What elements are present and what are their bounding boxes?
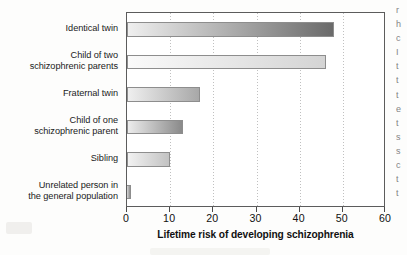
page-bleed-line: s xyxy=(390,144,407,158)
category-label-line: Child of one xyxy=(0,115,118,125)
page-bleed-line: e xyxy=(390,102,407,116)
bar xyxy=(127,120,183,135)
category-label-line: schizophrenic parent xyxy=(0,126,118,136)
page-bleed-line: r xyxy=(390,3,407,17)
page-bleed-line: t xyxy=(390,59,407,73)
page-bleed-line: c xyxy=(390,158,407,172)
x-tick xyxy=(384,207,385,212)
x-tick xyxy=(299,207,300,212)
category-label: Sibling xyxy=(0,153,118,163)
page-bleed-line: t xyxy=(390,88,407,102)
x-tick xyxy=(126,207,127,212)
category-label-line: Identical twin xyxy=(0,23,118,33)
scan-smudge xyxy=(6,222,32,234)
x-tick xyxy=(169,207,170,212)
category-label: Unrelated person inthe general populatio… xyxy=(0,180,118,201)
bar xyxy=(127,152,170,167)
category-label: Fraternal twin xyxy=(0,88,118,98)
category-label-line: Unrelated person in xyxy=(0,180,118,190)
page-bleed-line: s xyxy=(390,130,407,144)
bar xyxy=(127,87,200,102)
category-label: Child of twoschizophrenic parents xyxy=(0,50,118,71)
page-bleed-line: h xyxy=(390,17,407,31)
category-label: Child of oneschizophrenic parent xyxy=(0,115,118,136)
x-tick xyxy=(212,207,213,212)
bar xyxy=(127,22,334,37)
bar xyxy=(127,185,131,200)
page-bleed-line: t xyxy=(390,172,407,186)
x-tick xyxy=(342,207,343,212)
scanned-page-bleed-text: rhcItttetssctt xyxy=(390,0,407,255)
x-tick-label: 40 xyxy=(293,212,305,224)
x-tick-label: 0 xyxy=(123,212,129,224)
x-tick-label: 30 xyxy=(249,212,261,224)
page-bleed-line: t xyxy=(390,73,407,87)
page-bleed-line: I xyxy=(390,45,407,59)
x-axis-tick-labels: 0102030405060 xyxy=(126,212,385,228)
schizophrenia-risk-bar-chart-figure: Identical twinChild of twoschizophrenic … xyxy=(0,0,407,255)
category-label-line: schizophrenic parents xyxy=(0,61,118,71)
page-bleed-line: c xyxy=(390,31,407,45)
x-tick xyxy=(256,207,257,212)
category-label-line: the general population xyxy=(0,191,118,201)
x-axis-title: Lifetime risk of developing schizophreni… xyxy=(126,229,385,240)
category-label: Identical twin xyxy=(0,23,118,33)
x-tick-label: 10 xyxy=(163,212,175,224)
scan-smudge xyxy=(150,248,270,255)
plot-area xyxy=(126,12,385,207)
bars-container xyxy=(127,13,384,206)
bar xyxy=(127,55,326,70)
x-tick-label: 20 xyxy=(206,212,218,224)
category-label-line: Fraternal twin xyxy=(0,88,118,98)
x-tick-label: 50 xyxy=(336,212,348,224)
page-bleed-line: t xyxy=(390,116,407,130)
category-label-line: Child of two xyxy=(0,50,118,60)
category-label-line: Sibling xyxy=(0,153,118,163)
page-bleed-line: t xyxy=(390,186,407,200)
category-axis-labels: Identical twinChild of twoschizophrenic … xyxy=(0,12,122,207)
